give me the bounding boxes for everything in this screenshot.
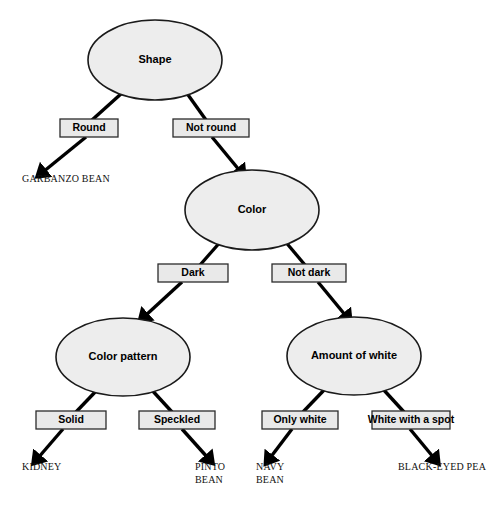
node-color[interactable]: Color	[185, 170, 319, 250]
decision-tree-diagram: ShapeColorColor patternAmount of white R…	[0, 0, 492, 506]
node-label-amount_white: Amount of white	[311, 349, 397, 361]
node-label-color: Color	[238, 203, 267, 215]
leaf-line: BEAN	[256, 474, 284, 485]
node-label-shape: Shape	[138, 53, 171, 65]
leaf-garbanzo_bean: GARBANZO BEAN	[22, 173, 110, 184]
node-shape[interactable]: Shape	[88, 20, 222, 100]
branch-label-only_white: Only white	[273, 413, 326, 425]
tree-canvas: ShapeColorColor patternAmount of white R…	[0, 0, 492, 506]
diagram-background	[0, 0, 492, 506]
branch-label-not_round: Not round	[186, 121, 236, 133]
branch-not_round[interactable]: Not round	[173, 119, 249, 137]
leaf-line: GARBANZO BEAN	[22, 173, 110, 184]
branch-not_dark[interactable]: Not dark	[272, 264, 346, 282]
leaf-line: KIDNEY	[22, 461, 62, 472]
node-label-color_pattern: Color pattern	[88, 350, 157, 362]
branch-round[interactable]: Round	[60, 119, 118, 137]
branch-solid[interactable]: Solid	[36, 411, 106, 429]
branch-label-dark: Dark	[181, 266, 205, 278]
leaf-line: PINTO	[195, 461, 225, 472]
leaf-line: NAVY	[256, 461, 284, 472]
leaf-line: BLACK-EYED PEA	[398, 461, 487, 472]
leaf-black_eyed_pea: BLACK-EYED PEA	[398, 461, 487, 472]
branch-white_with_spot[interactable]: White with a spot	[368, 411, 455, 429]
node-amount_white[interactable]: Amount of white	[287, 317, 421, 395]
leaf-line: BEAN	[195, 474, 223, 485]
branch-label-solid: Solid	[58, 413, 84, 425]
branch-speckled[interactable]: Speckled	[139, 411, 215, 429]
leaf-kidney: KIDNEY	[22, 461, 62, 472]
branch-label-round: Round	[72, 121, 105, 133]
branch-label-white_with_spot: White with a spot	[368, 413, 455, 425]
branch-only_white[interactable]: Only white	[262, 411, 338, 429]
node-color_pattern[interactable]: Color pattern	[56, 318, 190, 396]
branch-label-not_dark: Not dark	[288, 266, 331, 278]
branch-label-speckled: Speckled	[154, 413, 200, 425]
branch-dark[interactable]: Dark	[158, 264, 228, 282]
